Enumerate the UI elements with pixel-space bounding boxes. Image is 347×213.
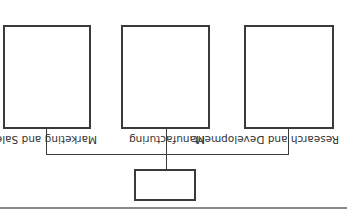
divider-rule: [0, 207, 347, 209]
department-label-marketing: Marketing and Sales: [0, 133, 97, 147]
connector-bus: [46, 154, 289, 155]
department-box-marketing: [3, 25, 91, 129]
connector-root-stem: [166, 154, 167, 169]
department-box-manufacturing: [121, 25, 210, 129]
department-box-research: [244, 25, 334, 129]
department-label-manufacturing: Manufacturing: [122, 133, 212, 147]
department-label-research: Research and Development: [239, 133, 339, 147]
root-box: [134, 169, 196, 201]
org-chart-diagram: Research and Development Manufacturing M…: [0, 0, 347, 213]
